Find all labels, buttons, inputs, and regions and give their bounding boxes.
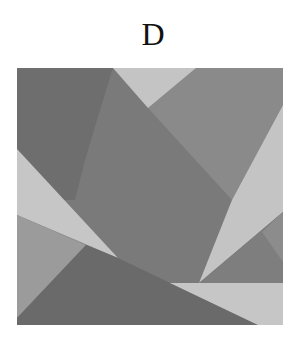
geometric-figure [0,0,306,346]
figure-polygons [17,68,283,325]
